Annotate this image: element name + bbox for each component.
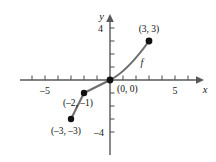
graph-figure: –5 5 4 –4 y x (3, 3) (0, 0) (–2, –1) (–3… (0, 0, 216, 162)
x-axis-label: x (202, 84, 208, 95)
x-tick-label-pos5: 5 (173, 85, 178, 96)
label-function-f: f (141, 57, 145, 68)
label-point-neg3-neg3: (–3, –3) (51, 126, 81, 137)
y-axis (106, 14, 114, 155)
y-tick-label-pos4: 4 (98, 23, 103, 34)
y-axis-arrow-icon (106, 14, 114, 22)
point-origin (107, 77, 114, 84)
y-tick-label-neg4: –4 (93, 127, 104, 138)
point-neg2-neg1 (81, 90, 87, 96)
point-3-3 (146, 38, 153, 45)
point-neg3-neg3 (68, 116, 74, 122)
x-tick-label-neg5: –5 (39, 85, 50, 96)
coordinate-plane: –5 5 4 –4 y x (3, 3) (0, 0) (–2, –1) (–3… (0, 0, 216, 162)
y-axis-label: y (98, 11, 104, 22)
label-point-3-3: (3, 3) (139, 24, 160, 35)
label-point-0-0: (0, 0) (117, 84, 138, 95)
segment-left-upper (84, 80, 110, 93)
x-axis-arrow-icon (196, 76, 204, 84)
label-point-neg2-neg1: (–2, –1) (63, 98, 93, 109)
